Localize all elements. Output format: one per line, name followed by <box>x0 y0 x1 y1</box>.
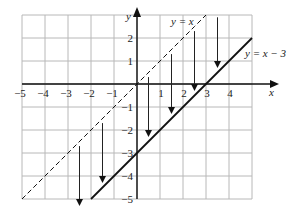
y-axis-arrowhead-icon <box>133 7 141 17</box>
arrowhead-down-icon <box>76 199 83 206</box>
x-axis-label: x <box>268 86 274 98</box>
x-tick-label: 3 <box>204 87 210 99</box>
x-tick-label: −2 <box>83 87 95 99</box>
y-tick-label: −1 <box>121 101 133 113</box>
x-tick-label: −1 <box>106 87 118 99</box>
x-tick-label: 2 <box>181 87 187 99</box>
x-tick-label: 1 <box>158 87 164 99</box>
translation-arrows <box>76 17 221 206</box>
tick-labels: −5−4−3−2−1123421−1−2−3−4−5 <box>14 32 233 205</box>
x-tick-label: −5 <box>14 87 26 99</box>
line-label-y-equals-x-minus-3: y = x − 3 <box>244 47 287 59</box>
y-axis-label: y <box>125 10 131 22</box>
arrowhead-down-icon <box>191 84 198 91</box>
y-tick-label: −5 <box>121 193 133 205</box>
x-tick-label: −4 <box>37 87 49 99</box>
y-tick-label: −4 <box>121 170 133 182</box>
x-tick-label: 4 <box>227 87 233 99</box>
arrowhead-down-icon <box>145 130 152 137</box>
axes <box>22 7 279 199</box>
arrowhead-down-icon <box>99 176 106 183</box>
y-tick-label: −3 <box>121 147 133 159</box>
x-tick-label: −3 <box>60 87 72 99</box>
y-tick-label: 1 <box>128 55 134 67</box>
graph: −5−4−3−2−1123421−1−2−3−4−5 x y y = x y =… <box>0 0 294 213</box>
y-tick-label: −2 <box>121 124 133 136</box>
y-tick-label: 2 <box>128 32 134 44</box>
arrowhead-down-icon <box>168 107 175 114</box>
line-label-y-equals-x: y = x <box>170 15 194 27</box>
arrowhead-down-icon <box>214 61 221 68</box>
